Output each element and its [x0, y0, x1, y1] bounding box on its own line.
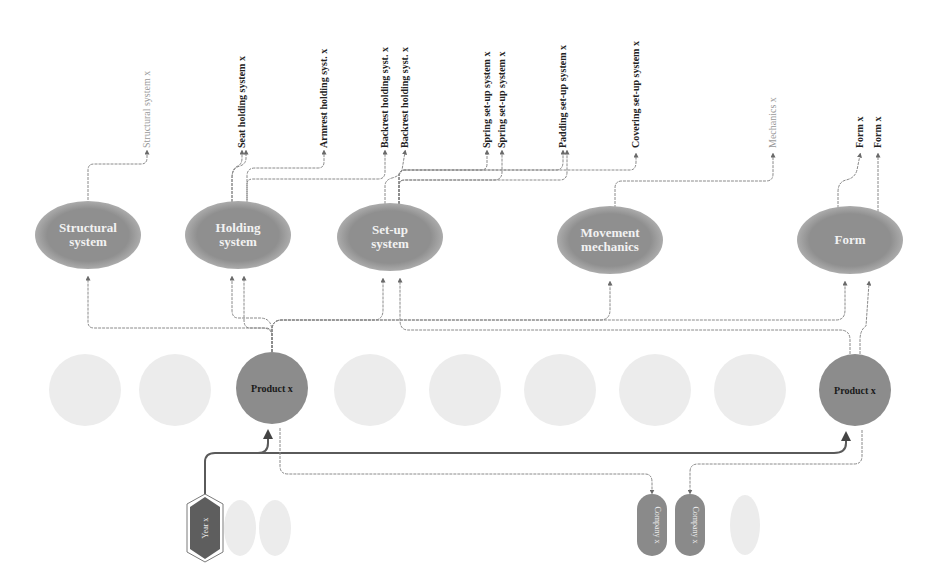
leaf-label-covering-set-up-system-x: Covering set-up system x [630, 41, 641, 148]
leaf-label-mechanics-x: Mechanics x [767, 97, 778, 148]
leaf-label-backrest-holding-syst-x-1: Backrest holding syst. x [379, 47, 390, 148]
year-label: Year x [201, 518, 210, 539]
category-label: Structural [59, 220, 117, 235]
product-classification-diagram: Structural system xSeat holding system x… [0, 0, 939, 575]
leaf-label-backrest-holding-syst-x-2: Backrest holding syst. x [399, 47, 410, 148]
faded-company-node [730, 495, 760, 555]
leaf-label-structural-system-x: Structural system x [141, 71, 152, 148]
faded-product-node [714, 354, 786, 426]
company-label: Company x [691, 506, 700, 543]
category-label: Holding [216, 220, 261, 235]
company-node: Company x [675, 494, 705, 556]
category-node-form: Form [797, 206, 903, 274]
product-node: Product x [236, 352, 308, 424]
faded-product-node [139, 354, 211, 426]
leaf-labels: Structural system xSeat holding system x… [141, 41, 883, 148]
leaf-label-seat-holding-system-x: Seat holding system x [236, 56, 247, 148]
connectors-top [88, 152, 878, 212]
category-label: Form [834, 232, 865, 247]
faded-product-node [334, 354, 406, 426]
company-node: Company x [637, 494, 667, 556]
leaf-label-armrest-holding-syst-x: Armrest holding syst. x [318, 49, 329, 148]
category-node-holding-system: Holdingsystem [185, 201, 291, 269]
category-label: system [371, 236, 409, 251]
category-node-set-up-system: Set-upsystem [337, 203, 443, 271]
leaf-label-form-x-1: Form x [854, 117, 865, 148]
connectors-bottom [205, 428, 862, 505]
faded-product-node [619, 354, 691, 426]
faded-product-node [49, 354, 121, 426]
faded-year-node [224, 500, 256, 556]
product-label: Product x [834, 385, 876, 396]
category-nodes: StructuralsystemHoldingsystemSet-upsyste… [35, 201, 903, 274]
leaf-label-padding-set-up-system-x: Padding set-up system x [557, 45, 568, 148]
leaf-label-form-x-2: Form x [872, 117, 883, 148]
category-label: mechanics [581, 239, 639, 254]
category-label: system [69, 234, 107, 249]
leaf-label-spring-set-up-system-x-1: Spring set-up system x [481, 52, 492, 148]
leaf-label-spring-set-up-system-x-2: Spring set-up system x [496, 52, 507, 148]
faded-year-node [259, 500, 291, 556]
company-label: Company x [653, 506, 662, 543]
product-label: Product x [251, 383, 293, 394]
faded-product-node [524, 354, 596, 426]
year-node: Year x [187, 494, 223, 562]
year-company-nodes: Year xCompany xCompany x [187, 494, 760, 562]
category-label: Set-up [372, 222, 408, 237]
category-label: Movement [580, 225, 640, 240]
faded-products [49, 354, 786, 426]
category-label: system [219, 234, 257, 249]
category-node-structural-system: Structuralsystem [35, 201, 141, 269]
faded-product-node [429, 354, 501, 426]
category-node-movement-mechanics: Movementmechanics [557, 206, 663, 274]
connectors-middle [88, 278, 869, 354]
product-node: Product x [819, 354, 891, 426]
